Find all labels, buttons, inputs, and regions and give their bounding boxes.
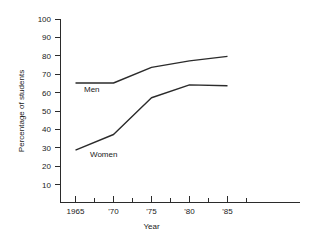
x-tick-label-1985: '85	[222, 207, 233, 216]
y-tick-label-20: 20	[42, 162, 51, 171]
x-tick-labels: 1965 '70 '75 '80 '85	[67, 207, 234, 216]
y-tick-label-10: 10	[42, 181, 51, 190]
y-tick-label-30: 30	[42, 144, 51, 153]
y-tick-label-80: 80	[42, 52, 51, 61]
series-label-men: Men	[84, 85, 100, 94]
y-tick-label-70: 70	[42, 70, 51, 79]
x-tick-label-1975: '75	[146, 207, 157, 216]
chart-canvas: 10 20 30 40 50 60 70 80 90 100	[0, 0, 321, 246]
y-tick-label-50: 50	[42, 107, 51, 116]
y-tick-label-40: 40	[42, 125, 51, 134]
y-tick-labels: 10 20 30 40 50 60 70 80 90 100	[38, 15, 52, 190]
x-minor-tick-group	[95, 198, 247, 203]
y-tick-group	[55, 19, 61, 185]
x-tick-label-1965: 1965	[67, 207, 85, 216]
y-tick-label-60: 60	[42, 89, 51, 98]
y-axis-title: Percentage of students	[17, 70, 26, 152]
x-major-tick-group	[76, 196, 228, 203]
x-tick-label-1980: '80	[184, 207, 195, 216]
series-label-women: Women	[90, 150, 117, 159]
x-tick-label-1970: '70	[108, 207, 119, 216]
series-line-women	[76, 85, 228, 150]
y-tick-label-100: 100	[38, 15, 52, 24]
x-axis-title: Year	[143, 222, 160, 231]
y-tick-label-90: 90	[42, 33, 51, 42]
line-chart: 10 20 30 40 50 60 70 80 90 100	[0, 0, 321, 246]
series-line-men	[76, 56, 228, 83]
